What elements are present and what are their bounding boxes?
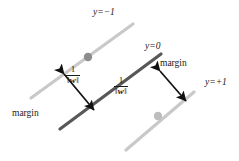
fraction-lower-numerator: 1 [114, 76, 128, 85]
label-y-zero-text: y=0 [145, 41, 160, 51]
fraction-lower-denominator: ‖w‖ [114, 87, 128, 96]
fraction-upper-numerator: 1 [66, 65, 80, 74]
svm-margin-diagram: y=−1 y=0 y=+1 margin margin 1 ‖w‖ 1 ‖w‖ [0, 0, 239, 161]
label-y-minus-one-text: y=−1 [93, 7, 115, 17]
fraction-lower-margin-width: 1 ‖w‖ [114, 76, 128, 97]
label-y-zero: y=0 [145, 42, 160, 52]
support-vector-upper [84, 53, 92, 61]
margin-arrow-right [160, 71, 186, 101]
label-margin-left: margin [12, 109, 39, 119]
label-margin-right: margin [160, 59, 187, 69]
label-y-plus-one: y=+1 [205, 78, 227, 88]
fraction-lower-w-symbol: w [118, 86, 124, 96]
label-margin-left-text: margin [12, 108, 39, 118]
fraction-upper-denominator: ‖w‖ [66, 76, 80, 85]
label-y-minus-one: y=−1 [93, 8, 115, 18]
fraction-upper-margin-width: 1 ‖w‖ [66, 65, 80, 86]
support-vector-lower [154, 112, 162, 120]
label-margin-right-text: margin [160, 58, 187, 68]
line-y-plus-one [126, 92, 194, 150]
fraction-upper-w-symbol: w [70, 75, 76, 85]
label-y-plus-one-text: y=+1 [205, 77, 227, 87]
